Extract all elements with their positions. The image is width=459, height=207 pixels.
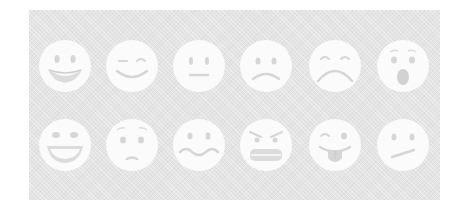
laughing-face-icon bbox=[38, 118, 92, 172]
sad-closed-eyes-face-icon bbox=[308, 39, 362, 93]
astonished-face-icon bbox=[376, 39, 430, 93]
confused-face-icon bbox=[376, 118, 430, 172]
grinning-face-icon bbox=[38, 39, 92, 93]
angry-grimacing-face-icon bbox=[239, 118, 293, 172]
worried-face-icon bbox=[105, 118, 159, 172]
winking-tongue-face-icon bbox=[308, 118, 362, 172]
smiling-closed-eyes-face-icon bbox=[105, 39, 159, 93]
confounded-wavy-mouth-face-icon bbox=[172, 118, 226, 172]
neutral-face-icon bbox=[172, 39, 226, 93]
frowning-face-icon bbox=[239, 39, 293, 93]
